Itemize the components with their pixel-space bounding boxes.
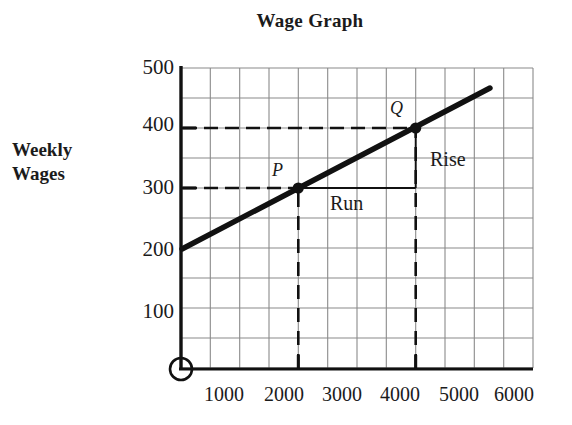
data-point-Q[interactable] (410, 122, 421, 133)
point-label-P: P (272, 160, 283, 181)
data-point-P[interactable] (293, 182, 304, 193)
annotation-rise: Rise (430, 148, 466, 171)
plot-area (0, 0, 572, 425)
annotation-run: Run (330, 192, 363, 215)
point-label-Q: Q (390, 98, 403, 119)
wage-graph-figure: Wage Graph Weekly Wages 500 400 300 200 … (0, 0, 572, 425)
